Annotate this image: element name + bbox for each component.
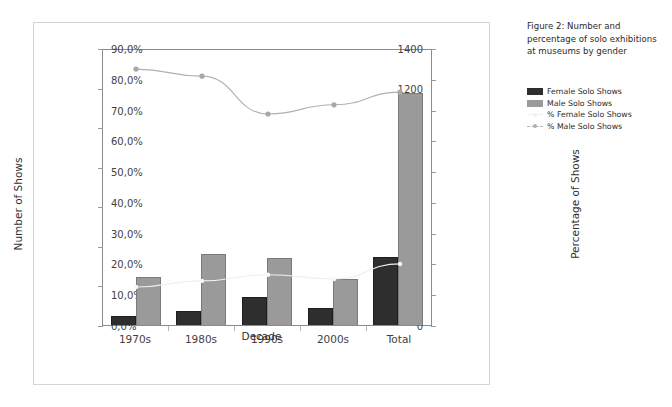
tick-mark — [431, 295, 436, 296]
legend-label: % Female Solo Shows — [547, 109, 632, 121]
bar-group-total — [365, 50, 431, 325]
legend-label: Male Solo Shows — [547, 98, 612, 110]
bar-female-total — [373, 257, 398, 325]
bar-female-1980s — [176, 311, 201, 325]
bar-group-2000s — [300, 50, 366, 325]
bar-group-1970s — [103, 50, 169, 325]
legend-line-icon — [527, 111, 543, 118]
legend-line-icon — [527, 123, 543, 130]
y-axis-title-right: Percentage of Shows — [569, 149, 581, 259]
x-axis-title: Decade — [34, 330, 489, 342]
bars-layer — [103, 50, 431, 325]
chart-frame: Number of Shows Percentage of Shows 0200… — [33, 22, 490, 385]
legend-item-3[interactable]: % Male Solo Shows — [527, 121, 667, 133]
tick-mark — [431, 111, 436, 112]
legend-label: Female Solo Shows — [547, 86, 622, 98]
y-axis-title-left: Number of Shows — [12, 157, 24, 250]
legend-item-2[interactable]: % Female Solo Shows — [527, 109, 667, 121]
tick-mark — [431, 264, 436, 265]
tick-mark — [431, 234, 436, 235]
chart-legend: Female Solo ShowsMale Solo Shows% Female… — [527, 86, 667, 132]
tick-mark — [431, 203, 436, 204]
legend-item-1[interactable]: Male Solo Shows — [527, 98, 667, 110]
tick-mark — [431, 49, 436, 50]
tick-mark — [431, 80, 436, 81]
bar-female-1970s — [111, 316, 136, 325]
legend-item-0[interactable]: Female Solo Shows — [527, 86, 667, 98]
legend-marker-dot-icon — [533, 124, 537, 128]
figure-container: Number of Shows Percentage of Shows 0200… — [0, 0, 672, 407]
bar-male-1980s — [201, 254, 226, 325]
bar-male-1970s — [136, 277, 161, 325]
plot-area: 0200400600800100012001400 0,0%10,0%20,0%… — [102, 49, 432, 326]
bar-male-total — [398, 93, 423, 325]
bar-male-1990s — [267, 258, 292, 325]
bar-group-1980s — [169, 50, 235, 325]
legend-label: % Male Solo Shows — [547, 121, 622, 133]
legend-swatch-icon — [527, 100, 543, 107]
tick-mark — [431, 141, 436, 142]
bar-female-2000s — [308, 308, 333, 325]
legend-swatch-icon — [527, 88, 543, 95]
tick-mark — [431, 172, 436, 173]
figure-caption: Figure 2: Number and percentage of solo … — [527, 20, 663, 58]
bar-female-1990s — [242, 297, 267, 325]
legend-marker-dot-icon — [533, 113, 537, 117]
bar-group-1990s — [234, 50, 300, 325]
bar-male-2000s — [333, 279, 358, 325]
